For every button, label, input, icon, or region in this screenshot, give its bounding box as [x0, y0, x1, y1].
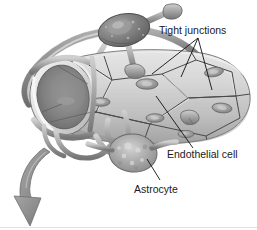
- label-endothelial-cell: Endothelial cell: [167, 148, 238, 160]
- astrocyte-endfoot-right: [181, 110, 199, 124]
- label-astrocyte: Astrocyte: [134, 183, 178, 195]
- bottom-rule: [0, 227, 257, 228]
- diagram-canvas: Tight junctions Endothelial cell Astrocy…: [0, 0, 257, 230]
- blood-brain-barrier-figure: Tight junctions Endothelial cell Astrocy…: [0, 0, 257, 230]
- label-tight-junctions: Tight junctions: [159, 24, 226, 36]
